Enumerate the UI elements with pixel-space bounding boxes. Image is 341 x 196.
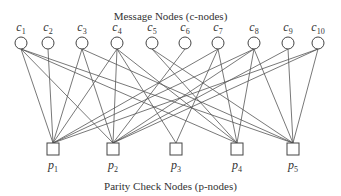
c-node-label-c1: c1 (16, 20, 25, 36)
p-nodes (47, 143, 299, 155)
p-node-p1 (47, 143, 59, 155)
edge-c5-p5 (152, 49, 293, 143)
c-node-c3 (76, 37, 88, 49)
p-node-label-p4: p4 (232, 158, 242, 174)
edge-c1-p2 (21, 49, 113, 143)
edge-c10-p5 (293, 49, 318, 143)
c-node-c8 (248, 37, 260, 49)
c-node-c6 (179, 37, 191, 49)
c-node-c9 (282, 37, 294, 49)
edge-c10-p1 (53, 49, 318, 143)
p-nodes-title: Parity Check Nodes (p-nodes) (0, 180, 341, 192)
edge-c6-p2 (113, 49, 185, 143)
c-node-label-c4: c4 (112, 20, 121, 36)
edge-c4-p3 (117, 49, 176, 143)
edge-c1-p1 (21, 49, 53, 143)
c-node-c5 (146, 37, 158, 49)
c-node-c4 (111, 37, 123, 49)
edge-c2-p1 (48, 49, 53, 143)
p-node-label-p2: p2 (108, 158, 118, 174)
p-node-p4 (231, 143, 243, 155)
edge-c8-p2 (113, 49, 254, 143)
c-node-c7 (212, 37, 224, 49)
c-nodes (15, 37, 324, 49)
p-node-p5 (287, 143, 299, 155)
c-node-label-c8: c8 (249, 20, 258, 36)
edge-c1-p4 (21, 49, 237, 143)
tanner-graph: Message Nodes (c-nodes) c1c2c3c4c5c6c7c8… (0, 0, 341, 196)
p-node-label-p1: p1 (48, 158, 58, 174)
p-node-label-p3: p3 (171, 158, 181, 174)
c-node-label-c3: c3 (77, 20, 86, 36)
c-node-label-c6: c6 (180, 20, 189, 36)
c-node-label-c5: c5 (147, 20, 156, 36)
c-node-c1 (15, 37, 27, 49)
c-node-label-c7: c7 (213, 20, 222, 36)
p-node-p2 (107, 143, 119, 155)
p-node-p3 (170, 143, 182, 155)
c-node-label-c2: c2 (43, 20, 52, 36)
edge-c9-p5 (288, 49, 293, 143)
edge-c7-p3 (176, 49, 218, 143)
edge-c7-p4 (218, 49, 237, 143)
c-node-label-c9: c9 (283, 20, 292, 36)
c-node-c2 (42, 37, 54, 49)
p-node-label-p5: p5 (288, 158, 298, 174)
edges (21, 49, 318, 143)
c-node-c10 (312, 37, 324, 49)
edge-c3-p2 (82, 49, 113, 143)
edge-c1-p5 (21, 49, 293, 143)
c-node-label-c10: c10 (311, 20, 324, 36)
